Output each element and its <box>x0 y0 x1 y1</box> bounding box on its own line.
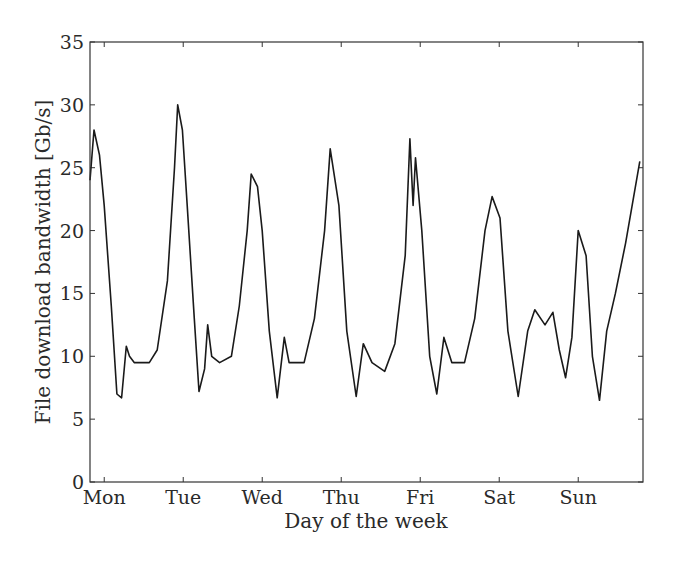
line-chart: 05101520253035 MonTueWedThuFriSatSun Day… <box>0 0 679 562</box>
x-axis-label: Day of the week <box>284 509 448 533</box>
x-axis-ticks: MonTueWedThuFriSatSun <box>83 42 597 508</box>
x-tick-label-sun: Sun <box>559 486 597 508</box>
y-tick-label: 35 <box>60 31 84 53</box>
y-tick-label: 5 <box>72 408 84 430</box>
y-tick-label: 20 <box>60 220 84 242</box>
x-tick-label-fri: Fri <box>406 486 434 508</box>
x-tick-label-mon: Mon <box>83 486 126 508</box>
y-tick-label: 30 <box>60 94 84 116</box>
y-axis-label: File download bandwidth [Gb/s] <box>31 100 55 425</box>
x-tick-label-thu: Thu <box>323 486 360 508</box>
y-tick-label: 10 <box>60 345 84 367</box>
x-tick-label-wed: Wed <box>242 486 283 508</box>
plot-frame <box>90 42 643 482</box>
x-tick-label-sat: Sat <box>483 486 515 508</box>
x-tick-label-tue: Tue <box>165 486 201 508</box>
y-tick-label: 15 <box>60 282 84 304</box>
y-tick-label: 25 <box>60 157 84 179</box>
bandwidth-line <box>90 105 640 400</box>
y-axis-ticks: 05101520253035 <box>60 31 643 493</box>
